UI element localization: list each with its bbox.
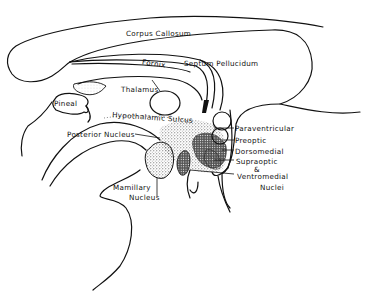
label-mamillary: Mamillary: [113, 184, 151, 191]
label-corpus-callosum: Corpus Callosum: [126, 30, 191, 37]
label-pineal: Pineal: [54, 100, 77, 107]
thalamus: [73, 77, 202, 115]
label-dorsomedial: Dorsomedial: [235, 148, 284, 155]
label-preoptic: Preoptic: [235, 137, 267, 144]
brain-sagittal-diagram: [0, 0, 372, 292]
label-nucleus: Nucleus: [129, 194, 160, 201]
brainstem: [42, 122, 160, 290]
interthalamic-adhesion: [150, 91, 180, 115]
mamillary-body: [145, 142, 173, 178]
label-thalamus: Thalamus: [121, 86, 158, 93]
label-ventromedial: Ventromedial: [237, 173, 288, 180]
label-nuclei: Nuclei: [260, 184, 284, 191]
label-posterior-nucleus: Posterior Nucleus: [67, 131, 135, 138]
label-septum-pellucidum: Septum Pellucidum: [184, 60, 258, 67]
label-paraventricular: Paraventricular: [235, 125, 294, 132]
